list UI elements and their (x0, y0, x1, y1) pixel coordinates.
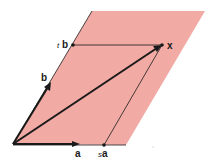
point-sa (102, 143, 106, 147)
label-x: x (167, 40, 173, 51)
label-tb-scalar: t (57, 41, 60, 50)
speck-decoration (153, 147, 154, 148)
label-a: a (75, 148, 81, 159)
point-tb (71, 43, 75, 47)
point-x (160, 43, 164, 47)
vector-diagram: t b x b a s a (0, 0, 211, 167)
label-b: b (41, 72, 47, 83)
label-tb-vector: b (62, 39, 68, 50)
label-sa-vector: a (102, 148, 108, 159)
